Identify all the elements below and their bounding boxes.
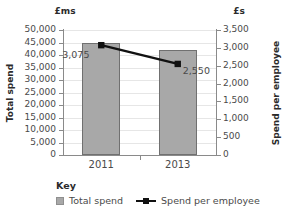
line-marker[interactable] <box>175 61 181 67</box>
left-axis-tick-label: 50,000 <box>25 25 57 34</box>
dual-axis-chart: £ms £s Total spend Spend per employee 05… <box>0 0 283 215</box>
right-axis-tick-label: 2,000 <box>223 79 249 88</box>
right-axis-title: Spend per employee <box>271 33 281 153</box>
right-axis-tick <box>217 101 221 102</box>
right-axis-tick <box>217 84 221 85</box>
data-label: 3,075 <box>62 50 89 60</box>
right-axis-tick-label: 1,000 <box>223 114 249 123</box>
left-axis-tick-label: 5,000 <box>30 138 56 147</box>
right-axis-tick <box>217 155 221 156</box>
left-axis-tick-label: 20,000 <box>25 100 57 109</box>
category-axis-line <box>63 155 217 156</box>
left-axis-tick-label: 45,000 <box>25 38 57 47</box>
data-label: 2,550 <box>183 66 210 76</box>
right-axis-tick <box>217 66 221 67</box>
legend-item-total-spend[interactable]: Total spend <box>56 195 123 206</box>
category-label: 2013 <box>153 160 203 170</box>
category-separator-tick <box>140 156 141 160</box>
legend-label-total-spend: Total spend <box>69 195 123 206</box>
left-axis-tick-label: 15,000 <box>25 113 57 122</box>
right-axis-tick <box>217 137 221 138</box>
legend-title: Key <box>56 180 76 191</box>
right-axis-tick-label: 500 <box>223 132 240 141</box>
right-axis-tick <box>217 30 221 31</box>
left-axis-tick-label: 30,000 <box>25 75 57 84</box>
right-axis-tick-label: 1,500 <box>223 96 249 105</box>
right-axis-tick-label: 3,000 <box>223 43 249 52</box>
right-axis-unit-label: £s <box>216 6 262 16</box>
left-axis-tick-label: 40,000 <box>25 50 57 59</box>
left-axis-tick-label: 35,000 <box>25 63 57 72</box>
left-axis-unit-label: £ms <box>36 6 94 16</box>
legend: Total spend Spend per employee <box>56 195 271 206</box>
left-axis-title: Total spend <box>5 53 15 133</box>
left-axis-tick-label: 0 <box>50 150 56 159</box>
right-axis-tick <box>217 119 221 120</box>
category-label: 2011 <box>76 160 126 170</box>
line-swatch-icon <box>136 197 156 205</box>
right-axis-tick <box>217 48 221 49</box>
legend-label-spend-per-employee: Spend per employee <box>161 195 260 206</box>
trend-line <box>101 45 178 64</box>
right-axis-tick-label: 2,500 <box>223 61 249 70</box>
line-marker[interactable] <box>98 42 104 48</box>
right-axis-tick-label: 3,500 <box>223 25 249 34</box>
left-axis-tick-label: 10,000 <box>25 125 57 134</box>
left-axis-tick-label: 25,000 <box>25 88 57 97</box>
right-axis-tick-label: 0 <box>223 150 229 159</box>
bar-swatch-icon <box>56 197 64 205</box>
right-axis-line <box>216 29 217 155</box>
legend-item-spend-per-employee[interactable]: Spend per employee <box>136 195 260 206</box>
